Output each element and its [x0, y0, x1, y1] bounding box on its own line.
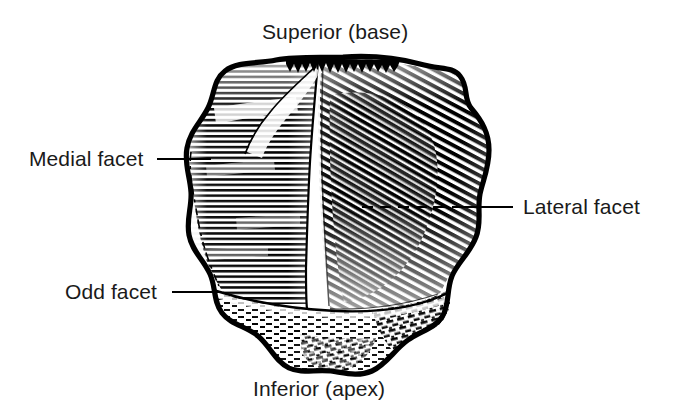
label-odd-facet: Odd facet [65, 281, 157, 302]
label-medial-facet: Medial facet [29, 148, 143, 169]
label-inferior-apex: Inferior (apex) [253, 378, 385, 399]
label-superior-base: Superior (base) [262, 21, 408, 42]
lateral-facet-hatching [300, 45, 505, 320]
label-lateral-facet: Lateral facet [523, 196, 640, 217]
figure-page: Superior (base) Inferior (apex) Medial f… [0, 0, 685, 419]
